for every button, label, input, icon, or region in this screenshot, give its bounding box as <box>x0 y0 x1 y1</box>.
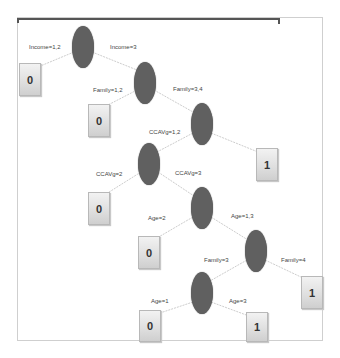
edge-label: Family=3,4 <box>173 85 203 93</box>
edge-label: Family=3 <box>204 256 229 264</box>
leaf-node: 0 <box>138 236 160 269</box>
edge-label: CCAVg=3 <box>175 169 201 177</box>
leaf-node: 0 <box>88 104 110 137</box>
split-node-income <box>72 26 94 68</box>
edge-label: Age=1,3 <box>231 212 254 220</box>
split-node-age-1 <box>191 187 213 229</box>
split-node-family-1 <box>134 62 156 104</box>
edge-label: Family=1,2 <box>93 86 123 94</box>
edge-n3-l3 <box>211 133 258 152</box>
leaf-node: 1 <box>301 276 323 309</box>
edge-label: Age=3 <box>229 297 247 305</box>
edge-n1-n2 <box>92 52 137 70</box>
split-node-ccavg-2 <box>138 143 160 185</box>
edge-label: CCAVg=2 <box>96 170 122 178</box>
edge-n5-n6 <box>211 217 248 240</box>
leaf-node: 0 <box>88 192 110 225</box>
edge-label: Family=4 <box>281 256 306 264</box>
edge-n1-l1 <box>38 52 74 67</box>
tree-edges <box>0 0 340 358</box>
edge-label: Income=3 <box>110 43 137 51</box>
split-node-ccavg-1 <box>191 103 213 145</box>
split-node-age-2 <box>191 272 213 314</box>
edge-label: Income=1,2 <box>29 43 61 51</box>
edge-label: Age=1 <box>151 297 169 305</box>
leaf-node: 1 <box>256 148 278 181</box>
edge-label: CCAVg=1,2 <box>149 128 180 136</box>
leaf-node: 0 <box>19 63 41 96</box>
leaf-node: 0 <box>139 310 161 342</box>
leaf-node: 1 <box>246 312 268 342</box>
edge-label: Age=2 <box>148 214 166 222</box>
split-node-family-2 <box>245 230 267 272</box>
edge-n2-n3 <box>154 90 193 112</box>
